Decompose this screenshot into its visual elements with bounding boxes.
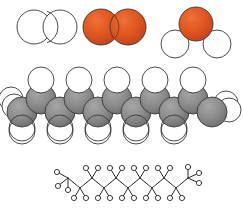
chain-carbon-sphere	[197, 97, 227, 127]
hydrogen-ball	[155, 165, 160, 170]
hydrogen-ball	[196, 180, 201, 185]
hydrogen-atom-sphere	[43, 10, 77, 44]
hydrogen-ball	[167, 195, 172, 200]
chain-hydrogen-sphere	[104, 67, 130, 93]
molecular-diagram-figure: Molecular space-filling and ball-and-sti…	[0, 0, 243, 210]
hydrogen-ball	[179, 195, 184, 200]
chain-hydrogen-sphere	[28, 67, 54, 93]
hydrogen-ball	[143, 165, 148, 170]
hydrogen-ball	[131, 195, 136, 200]
hydrogen-ball	[107, 165, 112, 170]
hydrogen-ball	[65, 187, 70, 192]
hydrogen-ball	[83, 195, 88, 200]
chain-hydrogen-sphere	[180, 67, 206, 93]
hydrogen-ball	[95, 195, 100, 200]
oxygen-atom-sphere	[110, 9, 146, 45]
chain-hydrogen-sphere	[66, 67, 92, 93]
diagram-canvas	[0, 0, 243, 210]
hydrogen-ball	[71, 195, 76, 200]
hydrogen-ball	[155, 195, 160, 200]
hydrogen-ball	[119, 165, 124, 170]
hydrogen-ball	[107, 195, 112, 200]
hydrogen-ball	[83, 165, 88, 170]
hydrogen-ball	[131, 165, 136, 170]
hydrogen-ball	[196, 170, 201, 175]
chain-hydrogen-sphere	[142, 67, 168, 93]
hydrogen-ball	[54, 169, 59, 174]
hydrogen-ball	[185, 164, 190, 169]
hydrogen-ball	[55, 183, 60, 188]
hydrogen-ball	[119, 195, 124, 200]
hydrogen-ball	[95, 165, 100, 170]
hydrogen-ball	[143, 195, 148, 200]
hydrogen-ball	[167, 165, 172, 170]
water-oxygen-atom-sphere	[179, 7, 213, 41]
